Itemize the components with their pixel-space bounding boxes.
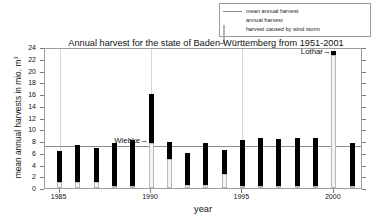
y-axis-tick-label: 20	[20, 68, 36, 75]
bar-segment-annual-harvest	[276, 139, 281, 186]
x-axis-tick-label: 1985	[44, 193, 74, 200]
bar-segment-wind-storm	[295, 186, 300, 188]
bar-segment-wind-storm	[222, 174, 227, 188]
bar-1987	[94, 148, 99, 188]
legend-item-annual-harvest: annual harvest	[223, 16, 367, 24]
y-axis-tick-label: 10	[20, 126, 36, 133]
bar-1985	[57, 151, 62, 188]
y-axis-tick-mark-right	[362, 119, 366, 120]
y-axis-tick-mark-right	[362, 60, 366, 61]
legend-key-black-swatch-icon	[223, 17, 242, 23]
y-axis-tick-mark-right	[362, 107, 366, 108]
x-axis-tick-label: 1990	[135, 193, 165, 200]
y-axis-tick-label: 2	[20, 173, 36, 180]
x-axis-title: year	[44, 204, 362, 214]
annotation-0: Wiebke→	[104, 136, 148, 145]
bar-2000	[331, 51, 336, 188]
chart-figure: mean annual harvest annual harvest harve…	[0, 0, 375, 223]
bar-1988	[112, 143, 117, 188]
legend-label: mean annual harvest	[246, 8, 298, 14]
bar-segment-wind-storm	[331, 55, 336, 188]
y-axis-tick-label: 24	[20, 44, 36, 51]
bar-2001	[350, 143, 355, 188]
bar-segment-wind-storm	[112, 186, 117, 188]
bar-1999	[313, 138, 318, 188]
y-axis-tick-label: 14	[20, 103, 36, 110]
bar-1986	[75, 145, 80, 188]
plot-area	[44, 48, 362, 189]
bar-segment-annual-harvest	[112, 143, 117, 186]
x-axis-tick-label: 1995	[226, 193, 256, 200]
bar-segment-wind-storm	[149, 143, 154, 188]
y-axis-tick-mark	[40, 189, 44, 190]
legend-key-grey-swatch-icon	[223, 26, 242, 32]
y-axis-tick-mark-right	[362, 95, 366, 96]
bar-segment-annual-harvest	[258, 138, 263, 186]
bar-1994	[222, 150, 227, 188]
bar-segment-annual-harvest	[295, 138, 300, 187]
y-axis-tick-mark-right	[362, 177, 366, 178]
bar-1993	[203, 143, 208, 188]
bar-1989	[130, 140, 135, 188]
bar-segment-annual-harvest	[222, 150, 227, 174]
bar-segment-annual-harvest	[75, 145, 80, 182]
bar-1998	[295, 137, 300, 188]
legend-item-mean-annual-harvest: mean annual harvest	[223, 7, 367, 15]
x-axis-tick-label: 2000	[318, 193, 348, 200]
bar-segment-annual-harvest	[240, 140, 245, 186]
bar-segment-wind-storm	[75, 182, 80, 188]
y-axis-tick-label: 8	[20, 138, 36, 145]
bar-segment-annual-harvest	[94, 148, 99, 181]
bar-segment-annual-harvest	[185, 153, 190, 185]
bar-segment-annual-harvest	[57, 151, 62, 182]
bar-segment-annual-harvest	[167, 142, 172, 159]
bar-1997	[276, 139, 281, 188]
y-axis-tick-mark-right	[362, 154, 366, 155]
bar-segment-wind-storm	[240, 186, 245, 188]
bar-segment-annual-harvest	[331, 51, 336, 56]
legend-item-wind-storm: harvest caused by wind storm	[223, 25, 367, 33]
bar-segment-wind-storm	[57, 182, 62, 188]
bar-1991	[167, 142, 172, 188]
y-axis-tick-label: 6	[20, 150, 36, 157]
bar-segment-wind-storm	[258, 186, 263, 188]
bar-segment-wind-storm	[203, 185, 208, 188]
bar-1990	[149, 94, 154, 188]
annotation-1: Lothar→	[287, 47, 331, 56]
y-axis-tick-mark-right	[362, 48, 366, 49]
legend-label: harvest caused by wind storm	[246, 26, 320, 32]
bar-1992	[185, 153, 190, 188]
y-axis-tick-mark-right	[362, 142, 366, 143]
y-axis-tick-mark-right	[362, 166, 366, 167]
bar-segment-wind-storm	[276, 186, 281, 188]
bar-segment-wind-storm	[94, 182, 99, 188]
y-axis-tick-label: 16	[20, 91, 36, 98]
bar-segment-annual-harvest	[130, 140, 135, 186]
y-axis-tick-label: 18	[20, 79, 36, 86]
y-axis-tick-label: 4	[20, 162, 36, 169]
y-axis-tick-mark-right	[362, 83, 366, 84]
y-axis-tick-label: 12	[20, 115, 36, 122]
bar-segment-annual-harvest	[350, 143, 355, 186]
bar-segment-annual-harvest	[203, 143, 208, 185]
bar-segment-wind-storm	[313, 186, 318, 188]
bar-segment-wind-storm	[350, 186, 355, 188]
bar-segment-wind-storm	[130, 186, 135, 188]
y-axis-title-exponent: 3	[13, 56, 19, 59]
bar-segment-wind-storm	[167, 159, 172, 188]
bar-1996	[258, 138, 263, 188]
y-axis-tick-label: 0	[20, 185, 36, 192]
legend-key-line-icon	[223, 8, 242, 14]
legend-label: annual harvest	[246, 17, 283, 23]
y-axis-tick-label: 22	[20, 56, 36, 63]
y-axis-tick-mark-right	[362, 130, 366, 131]
chart-legend: mean annual harvest annual harvest harve…	[219, 3, 371, 37]
y-axis-tick-mark-right	[362, 72, 366, 73]
bar-segment-wind-storm	[185, 185, 190, 188]
y-axis-tick-mark-right	[362, 189, 366, 190]
bar-segment-annual-harvest	[149, 94, 154, 143]
bar-1995	[240, 140, 245, 188]
bar-segment-annual-harvest	[313, 138, 318, 186]
